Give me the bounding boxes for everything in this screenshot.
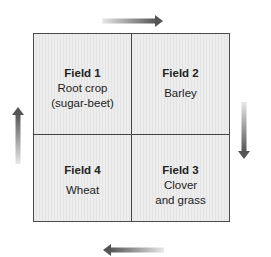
field-4-crop: Wheat [66,183,99,198]
field-2-cell: Field 2 Barley [132,34,229,135]
arrow-left-icon [100,243,166,257]
field-3-cell: Field 3 Clover and grass [132,135,229,221]
field-1-cell: Field 1 Root crop (sugar-beet) [34,34,132,135]
field-4-title: Field 4 [64,163,100,178]
field-grid: Field 1 Root crop (sugar-beet) Field 2 B… [33,33,230,222]
field-2-title: Field 2 [162,66,198,81]
field-2-crop: Barley [164,86,197,101]
arrow-right-icon [100,14,166,28]
field-3-title: Field 3 [162,163,198,178]
field-1-title: Field 1 [64,66,100,81]
field-3-crop: Clover and grass [155,178,206,208]
arrow-up-icon [11,104,25,166]
field-4-cell: Field 4 Wheat [34,135,132,221]
field-1-crop: Root crop (sugar-beet) [51,81,114,111]
arrow-down-icon [237,100,251,162]
